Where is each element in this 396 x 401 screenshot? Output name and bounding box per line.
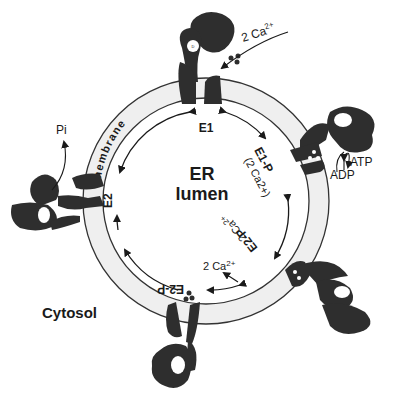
protein-e2p-right [285,261,370,334]
state-e1: E1 [199,121,214,135]
cytosol-label: Cytosol [42,304,97,321]
er-label: ER [189,164,214,184]
serca-cycle-diagram: membrane E1 E1-P (2 Ca2+) E2-P 2 Ca2+ E2… [0,0,396,401]
state-e2p-bottom: E2-P [157,282,184,296]
atp-label: ATP [350,155,372,169]
adp-label: ADP [330,168,355,182]
svg-text:D: D [192,44,195,49]
ca-incoming-label: 2 Ca2+ [239,20,277,45]
pi-label: Pi [56,123,67,137]
lumen-label: lumen [175,184,228,204]
